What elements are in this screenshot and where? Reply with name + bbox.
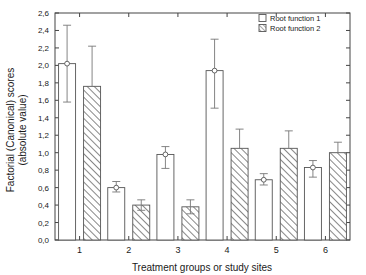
y-tick-label: 1,6 — [38, 96, 50, 105]
y-tick-label: 0,6 — [38, 184, 50, 193]
y-tick-label: 0,4 — [38, 201, 50, 210]
markers-layer — [65, 61, 316, 190]
y-tick-label: 2,2 — [38, 44, 50, 53]
y-tick-label: 1,8 — [38, 79, 50, 88]
mean-marker — [212, 68, 217, 73]
x-axis-label: Treatment groups or study sites — [132, 262, 272, 273]
x-tick-label: 2 — [126, 245, 131, 255]
x-tick-label: 5 — [274, 245, 279, 255]
y-tick-label: 1,2 — [38, 131, 50, 140]
y-tick-label: 1,0 — [38, 149, 50, 158]
y-tick-label: 2,6 — [38, 9, 50, 18]
mean-marker — [114, 185, 119, 190]
x-tick-label: 3 — [175, 245, 180, 255]
y-tick-label: 0,0 — [38, 236, 50, 245]
y-tick-label: 0,2 — [38, 219, 50, 228]
legend-swatch-series-2 — [259, 25, 266, 32]
y-axis-label-line1: Factorial (Canonical) scores — [5, 68, 16, 193]
bar-1-group-5 — [255, 180, 272, 240]
mean-marker — [311, 165, 316, 170]
bar-chart-canvas: 0,00,20,40,60,81,01,21,41,61,82,02,22,42… — [0, 0, 366, 275]
x-tick-label: 6 — [323, 245, 328, 255]
y-tick-label: 0,8 — [38, 166, 50, 175]
bar-2-group-1 — [84, 86, 101, 240]
bar-2-group-4 — [231, 148, 248, 240]
y-tick-label: 2,4 — [38, 26, 50, 35]
y-tick-label: 1,4 — [38, 114, 50, 123]
y-axis-label-line2: (absolute value) — [17, 94, 28, 165]
bar-1-group-6 — [304, 168, 321, 240]
mean-marker — [163, 152, 168, 157]
bar-2-group-6 — [329, 153, 346, 240]
mean-marker — [261, 177, 266, 182]
x-tick-label: 4 — [225, 245, 230, 255]
y-tick-label: 2,0 — [38, 61, 50, 70]
legend-label-series-2: Root function 2 — [270, 24, 320, 33]
bar-2-group-5 — [280, 148, 297, 240]
chart-figure: 0,00,20,40,60,81,01,21,41,61,82,02,22,42… — [0, 0, 366, 275]
bar-1-group-2 — [108, 188, 125, 240]
bars-layer — [59, 64, 347, 240]
chart-legend: Root function 1 Root function 2 — [259, 14, 320, 33]
mean-marker — [65, 61, 70, 66]
legend-swatch-series-1 — [259, 15, 266, 22]
legend-label-series-1: Root function 1 — [270, 14, 320, 23]
error-bars-layer — [63, 25, 342, 214]
x-tick-label: 1 — [77, 245, 82, 255]
